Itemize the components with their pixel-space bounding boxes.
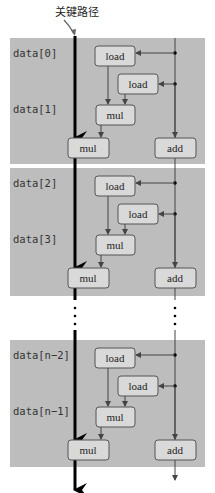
svg-text:add: add [167, 142, 183, 154]
panel-1-label-top: data[0] [13, 47, 57, 59]
ellipsis-left [74, 307, 77, 326]
panel-2-label-bottom: data[3] [13, 233, 57, 245]
svg-text:mul: mul [106, 239, 123, 251]
svg-text:load: load [106, 50, 125, 62]
svg-text:mul: mul [79, 444, 96, 456]
svg-text:add: add [167, 272, 183, 284]
svg-text:mul: mul [106, 411, 123, 423]
svg-text:load: load [106, 180, 125, 192]
svg-text:mul: mul [79, 142, 96, 154]
panel-3-label-bottom: data[n−1] [13, 405, 70, 417]
svg-text:add: add [167, 444, 183, 456]
svg-text:load: load [129, 78, 148, 90]
critical-path-diagram: 关键路径 data[0] data[1] load load [0, 0, 215, 493]
panel-2-label-top: data[2] [13, 177, 57, 189]
svg-text:mul: mul [79, 272, 96, 284]
ellipsis-right [174, 307, 177, 326]
panel-1-label-bottom: data[1] [13, 103, 57, 115]
svg-text:load: load [129, 208, 148, 220]
critical-path-title: 关键路径 [55, 5, 99, 19]
panel-3-label-top: data[n−2] [13, 349, 70, 361]
title-pointer-arrowhead [71, 29, 76, 36]
svg-text:load: load [129, 380, 148, 392]
svg-text:mul: mul [106, 109, 123, 121]
svg-text:load: load [106, 352, 125, 364]
